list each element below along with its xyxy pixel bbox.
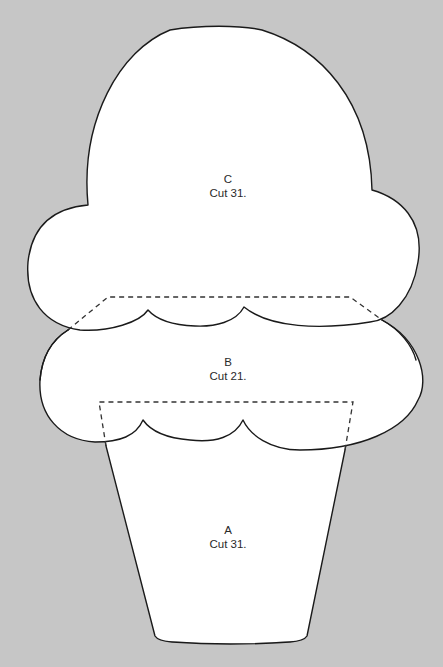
piece-c-letter: C — [168, 172, 288, 186]
piece-c-label: C Cut 31. — [168, 172, 288, 200]
piece-b-label: B Cut 21. — [168, 355, 288, 383]
piece-a-instruction: Cut 31. — [168, 537, 288, 551]
piece-a-letter: A — [168, 523, 288, 537]
piece-b-letter: B — [168, 355, 288, 369]
piece-a-label: A Cut 31. — [168, 523, 288, 551]
pattern-diagram — [0, 0, 443, 667]
piece-c-instruction: Cut 31. — [168, 186, 288, 200]
piece-b-instruction: Cut 21. — [168, 369, 288, 383]
